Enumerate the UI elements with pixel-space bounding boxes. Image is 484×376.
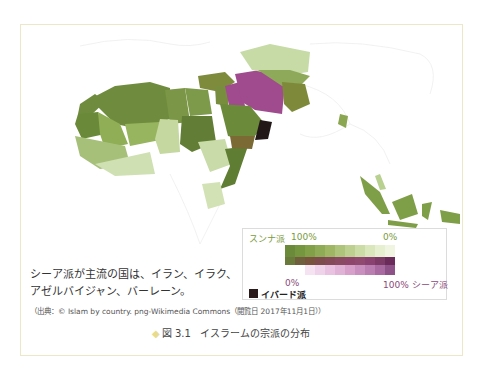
legend-swatch	[385, 265, 395, 275]
legend-swatch	[295, 245, 305, 257]
region-papua	[440, 210, 460, 224]
region-borneo	[392, 194, 418, 220]
region-chad	[155, 119, 180, 154]
legend-ibadi-swatch	[249, 289, 258, 298]
legend-swatch	[335, 245, 345, 257]
region-sumatra	[360, 176, 390, 214]
legend-swatch	[375, 245, 385, 257]
region-java	[388, 220, 418, 228]
legend-swatch	[355, 265, 365, 275]
legend-sunni-label: スンナ派	[249, 232, 285, 245]
legend-swatch	[375, 265, 385, 275]
legend-shia-label: 100% シーア派	[383, 278, 448, 291]
legend-zero-bottom: 0%	[285, 278, 299, 288]
source-citation: （出典：© Islam by country. png-Wikimedia Co…	[30, 305, 325, 316]
legend: スンナ派 100% 0% 0% 100% シーア派 イバード派	[242, 228, 447, 300]
legend-swatch	[345, 265, 355, 275]
legend-swatch	[325, 245, 335, 257]
region-ethiopia	[198, 139, 232, 172]
region-malaysia	[375, 174, 386, 190]
legend-swatch	[315, 265, 325, 275]
legend-ibadi-label: イバード派	[261, 288, 306, 301]
figure-title: イスラームの宗派の分布	[200, 328, 310, 339]
region-afghanistan	[282, 82, 310, 112]
legend-swatch	[305, 265, 315, 275]
figure-caption: ◆図 3.1 イスラームの宗派の分布	[152, 325, 310, 340]
legend-zero-top: 0%	[383, 232, 397, 242]
figure-number: 図 3.1	[162, 328, 191, 339]
legend-swatch	[305, 245, 315, 257]
legend-swatch	[365, 245, 375, 257]
region-sulawesi	[422, 202, 432, 220]
note-line-2: アゼルバイジャン、バーレーン。	[30, 283, 240, 300]
legend-sunni-pct: 100%	[291, 232, 317, 242]
legend-swatch	[365, 265, 375, 275]
legend-swatch	[285, 245, 295, 257]
legend-swatch	[315, 245, 325, 257]
legend-swatch	[385, 245, 395, 257]
legend-swatch	[285, 265, 295, 275]
note-line-1: シーア派が主流の国は、イラン、イラク、	[30, 266, 240, 283]
legend-swatch	[295, 265, 305, 275]
note-text: シーア派が主流の国は、イラン、イラク、 アゼルバイジャン、バーレーン。	[30, 266, 240, 300]
region-yemen	[230, 136, 255, 149]
diamond-icon: ◆	[152, 328, 160, 339]
legend-green-ramp	[285, 245, 395, 257]
legend-swatch	[325, 265, 335, 275]
legend-swatch	[355, 245, 365, 257]
legend-pink-ramp	[285, 265, 395, 275]
region-egypt	[185, 88, 212, 116]
legend-swatch	[335, 265, 345, 275]
legend-swatch	[345, 245, 355, 257]
